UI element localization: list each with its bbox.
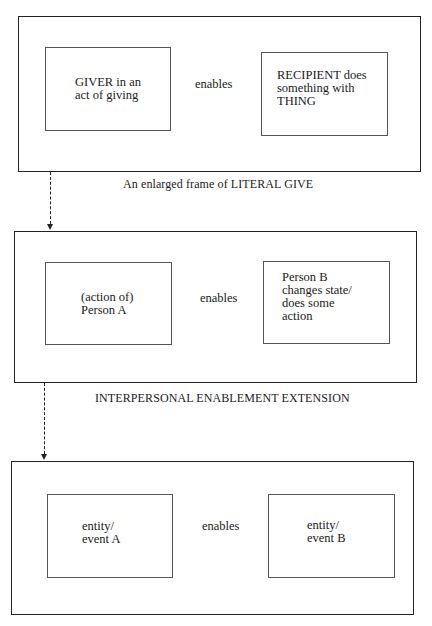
frame-general-enablement: entity/ event A enables entity/ event B — [11, 461, 414, 615]
recipient-box-text: RECIPIENT does something with THING — [277, 69, 367, 108]
person-a-box: (action of) Person A — [45, 262, 172, 345]
recipient-box: RECIPIENT does something with THING — [261, 52, 388, 136]
event-b-box: entity/ event B — [268, 494, 395, 578]
giver-box: GIVER in an act of giving — [45, 47, 171, 131]
dashed-connector — [44, 383, 45, 454]
event-a-box: entity/ event A — [47, 494, 173, 578]
person-b-box-text: Person B changes state/ does some action — [282, 271, 352, 323]
giver-box-text: GIVER in an act of giving — [75, 76, 141, 102]
enables-label: enables — [202, 519, 239, 534]
frame-literal-give: GIVER in an act of giving enables RECIPI… — [18, 16, 421, 172]
arrowhead-icon — [47, 224, 53, 230]
dashed-connector — [50, 172, 51, 224]
enables-label: enables — [195, 77, 232, 92]
person-b-box: Person B changes state/ does some action — [263, 261, 390, 344]
frame-caption-literal-give: An enlarged frame of LITERAL GIVE — [123, 177, 313, 192]
frame-interpersonal-enablement: (action of) Person A enables Person B ch… — [14, 231, 417, 383]
person-a-box-text: (action of) Person A — [81, 291, 133, 317]
enables-label: enables — [200, 291, 237, 306]
arrowhead-icon — [41, 454, 47, 460]
event-a-box-text: entity/ event A — [82, 520, 121, 546]
frame-caption-interpersonal: INTERPERSONAL ENABLEMENT EXTENSION — [95, 391, 350, 406]
event-b-box-text: entity/ event B — [307, 519, 346, 545]
